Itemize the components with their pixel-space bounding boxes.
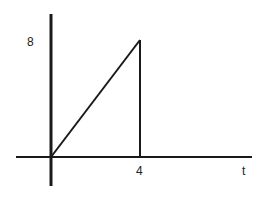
x-tick-label-4: 4 <box>136 164 143 178</box>
y-tick-label-8: 8 <box>27 35 34 49</box>
ramp-line <box>51 40 140 157</box>
ramp-graph: 8 4 t <box>0 0 257 198</box>
t-axis-label: t <box>242 164 246 178</box>
